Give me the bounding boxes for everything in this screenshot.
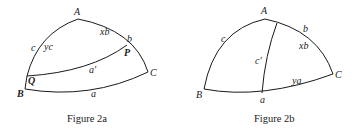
figure-2a-caption: Figure 2a (67, 113, 107, 124)
side-c-label: c (31, 43, 35, 53)
arc-BC (204, 74, 333, 92)
diagram-canvas (0, 0, 353, 128)
vertex-A-label: A (261, 6, 267, 16)
vertex-A-label: A (74, 7, 80, 17)
side-a-label: a (260, 95, 265, 105)
vertex-Q-label: Q (28, 76, 35, 86)
vertex-C-label: C (335, 70, 342, 80)
figure-2b-drawing (204, 19, 333, 93)
vertex-B-label: B (196, 90, 202, 100)
arc-BC (25, 72, 148, 92)
side-a-label: a (91, 89, 96, 99)
side-b-label: b (303, 24, 308, 34)
arc-QB (25, 76, 27, 89)
side-xb-label: xb (299, 41, 308, 51)
side-b-label: b (127, 34, 132, 44)
side-yc-label: yc (44, 42, 53, 52)
side-xb-label: xb (100, 27, 109, 37)
vertex-P-label: P (124, 48, 130, 58)
arc-c-prime (262, 23, 277, 93)
vertex-C-label: C (150, 68, 157, 78)
side-c-label: c (221, 34, 225, 44)
figure-2b-caption: Figure 2b (254, 113, 295, 124)
side-ya-label: ya (292, 76, 301, 86)
arc-QP (27, 45, 127, 76)
vertex-B-label: B (17, 89, 24, 99)
side-a-prime-label: a' (89, 65, 96, 75)
side-c-prime-label: c' (255, 56, 262, 66)
arc-AB (204, 19, 265, 89)
